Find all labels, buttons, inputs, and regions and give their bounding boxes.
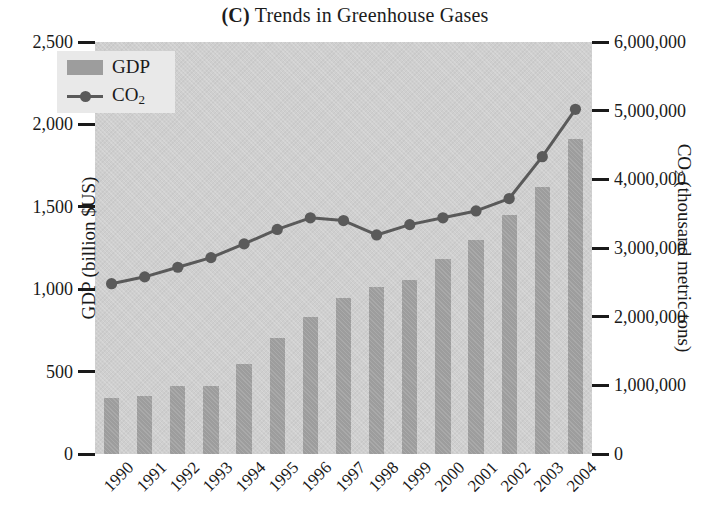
y-left-tick-mark xyxy=(78,41,95,44)
panel-letter: (C) xyxy=(221,4,249,26)
chart-title-text: Trends in Greenhouse Gases xyxy=(250,4,489,26)
x-axis-tick-label: 1997 xyxy=(331,458,369,496)
y-right-tick-label: 5,000,000 xyxy=(614,100,686,121)
x-axis-tick-labels: 1990199119921993199419951996199719981999… xyxy=(95,458,592,520)
co2-data-point xyxy=(139,271,150,282)
co2-data-point xyxy=(404,219,415,230)
y-left-tick-label: 1,500 xyxy=(33,196,74,217)
co2-data-point xyxy=(172,262,183,273)
y-left-tick-label: 2,500 xyxy=(33,32,74,53)
x-axis-tick-label: 2003 xyxy=(530,458,568,496)
y-right-tick-label: 2,000,000 xyxy=(614,306,686,327)
y-right-tick-mark xyxy=(592,41,609,44)
co2-data-point xyxy=(371,229,382,240)
greenhouse-gases-chart: (C) Trends in Greenhouse Gases GDP (bill… xyxy=(0,0,710,521)
y-right-tick-label: 4,000,000 xyxy=(614,169,686,190)
co2-data-point xyxy=(537,151,548,162)
x-axis-tick-label: 2002 xyxy=(497,458,535,496)
legend-item-co2: CO2 xyxy=(67,84,145,108)
legend-label-co2-subscript: 2 xyxy=(138,92,145,107)
x-axis-tick-label: 2001 xyxy=(464,458,502,496)
co2-data-point xyxy=(305,212,316,223)
x-axis-tick-label: 1995 xyxy=(265,458,303,496)
x-axis-tick-label: 1990 xyxy=(100,458,138,496)
y-right-tick-label: 0 xyxy=(614,444,623,465)
x-axis-tick-label: 1993 xyxy=(199,458,237,496)
co2-data-point xyxy=(437,212,448,223)
co2-data-point xyxy=(239,238,250,249)
co2-data-point xyxy=(470,205,481,216)
x-axis-tick-label: 2004 xyxy=(563,458,601,496)
x-axis-tick-label: 1996 xyxy=(298,458,336,496)
x-axis-tick-label: 1992 xyxy=(166,458,204,496)
y-right-tick-mark xyxy=(592,178,609,181)
y-left-tick-label: 0 xyxy=(64,444,73,465)
y-right-tick-mark xyxy=(592,247,609,250)
y-left-tick-mark xyxy=(78,370,95,373)
y-right-tick-label: 3,000,000 xyxy=(614,238,686,259)
y-left-tick-label: 500 xyxy=(46,361,73,382)
y-right-tick-mark xyxy=(592,453,609,456)
co2-data-point xyxy=(504,193,515,204)
y-left-tick-mark xyxy=(78,123,95,126)
co2-data-point xyxy=(205,252,216,263)
co2-data-point xyxy=(106,278,117,289)
legend-label-co2: CO2 xyxy=(112,84,145,108)
x-axis-tick-label: 1998 xyxy=(365,458,403,496)
chart-legend: GDP CO2 xyxy=(57,51,175,113)
co2-data-point xyxy=(570,104,581,115)
co2-data-point xyxy=(272,224,283,235)
x-axis-tick-label: 1999 xyxy=(398,458,436,496)
legend-bar-swatch-icon xyxy=(67,60,103,75)
y-left-tick-label: 2,000 xyxy=(33,114,74,135)
x-axis-tick-label: 2000 xyxy=(431,458,469,496)
y-left-tick-mark xyxy=(78,288,95,291)
legend-label-co2-main: CO xyxy=(112,84,138,105)
legend-label-gdp: GDP xyxy=(112,56,150,78)
chart-title: (C) Trends in Greenhouse Gases xyxy=(0,4,710,27)
x-axis-tick-label: 1991 xyxy=(133,458,171,496)
y-right-tick-mark xyxy=(592,109,609,112)
y-right-tick-label: 1,000,000 xyxy=(614,375,686,396)
x-axis-tick-label: 1994 xyxy=(232,458,270,496)
y-left-tick-label: 1,000 xyxy=(33,279,74,300)
y-left-tick-mark xyxy=(78,453,95,456)
legend-line-marker-icon xyxy=(67,89,103,104)
y-right-tick-mark xyxy=(592,384,609,387)
y-right-axis-title-main: CO xyxy=(675,144,696,170)
y-right-tick-label: 6,000,000 xyxy=(614,32,686,53)
y-left-tick-mark xyxy=(78,205,95,208)
legend-line-dot xyxy=(80,91,91,102)
y-right-tick-mark xyxy=(592,315,609,318)
legend-item-gdp: GDP xyxy=(67,56,150,78)
co2-data-point xyxy=(338,215,349,226)
